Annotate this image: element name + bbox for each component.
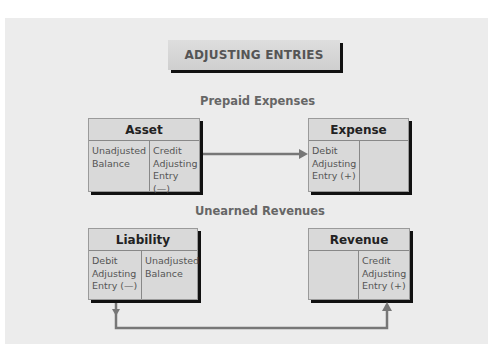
arrow-asset-to-expense: [203, 149, 308, 159]
arrow-liability-to-revenue: [112, 302, 392, 328]
arrow-down-icon: [112, 309, 120, 316]
arrow-up-icon: [382, 302, 392, 311]
connector-arrows: [0, 0, 496, 358]
